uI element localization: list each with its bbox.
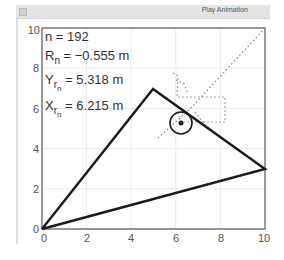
svg-text:4: 4: [128, 232, 134, 244]
svg-text:10: 10: [28, 24, 40, 36]
readout-r: Rn = −0.555 m: [45, 48, 129, 66]
r-symbol: R: [45, 48, 54, 63]
svg-text:8: 8: [33, 62, 39, 74]
svg-text:6: 6: [33, 103, 39, 115]
y-value: = 5.318 m: [61, 72, 123, 87]
svg-text:2: 2: [33, 183, 39, 195]
svg-text:6: 6: [173, 232, 179, 244]
r-value: = −0.555 m: [60, 48, 129, 63]
svg-text:10: 10: [258, 232, 270, 244]
x-value: = 6.215 m: [61, 98, 123, 113]
trajectory-trails: [158, 28, 265, 138]
x-symbol: X: [45, 98, 54, 113]
svg-text:0: 0: [33, 223, 39, 235]
svg-text:0: 0: [41, 232, 47, 244]
svg-text:8: 8: [218, 232, 224, 244]
plot-canvas: 0 2 4 6 8 10 0 2 4 6 8 10: [0, 0, 284, 260]
readout-y: Yrn = 5.318 m: [45, 72, 123, 93]
n-value: n = 192: [45, 29, 89, 44]
readout-n: n = 192: [45, 29, 89, 44]
svg-text:4: 4: [33, 143, 39, 155]
y-symbol: Y: [45, 72, 54, 87]
readout-x: Xrn = 6.215 m: [45, 98, 123, 119]
svg-text:2: 2: [84, 232, 90, 244]
